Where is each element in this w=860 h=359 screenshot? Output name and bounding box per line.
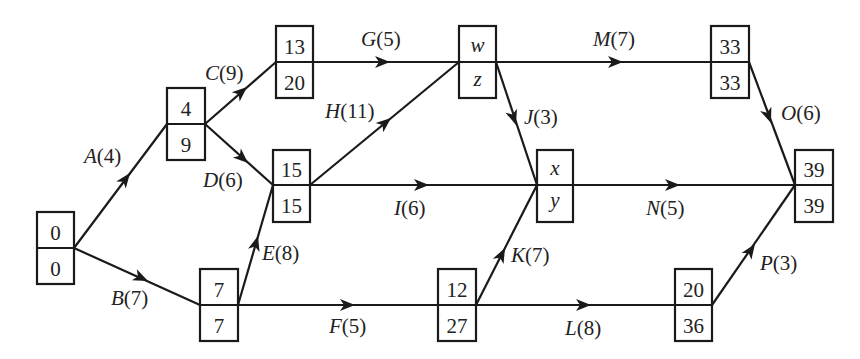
- label-o: O(6): [781, 101, 821, 125]
- node-10: 39 39: [795, 150, 833, 222]
- node-2-latest: 20: [284, 71, 305, 95]
- label-n: N(5): [645, 196, 685, 220]
- node-0: 0 0: [37, 212, 74, 284]
- label-k: K(7): [510, 243, 550, 267]
- node-10-earliest: 39: [804, 158, 825, 182]
- activity-network-diagram: A(4) B(7) C(9) D(6) E(8) F(5) G(5) H(11)…: [0, 0, 860, 359]
- label-b: B(7): [111, 286, 148, 310]
- edge-g: [313, 56, 459, 68]
- label-g: G(5): [361, 27, 401, 51]
- node-8-latest: 33: [720, 71, 741, 95]
- node-6-earliest: x: [549, 156, 560, 180]
- label-i: I(6): [393, 196, 426, 220]
- edge-i: [310, 179, 537, 191]
- label-a: A(4): [82, 144, 121, 168]
- node-9: 20 36: [675, 269, 712, 341]
- node-7-earliest: 12: [447, 278, 468, 302]
- label-c: C(9): [205, 61, 244, 85]
- label-f: F(5): [328, 314, 366, 338]
- node-4: 7 7: [200, 269, 238, 341]
- edge-a: [74, 124, 167, 248]
- node-1: 4 9: [167, 88, 205, 160]
- node-0-earliest: 0: [50, 221, 61, 245]
- node-2-earliest: 13: [284, 35, 305, 59]
- node-0-latest: 0: [50, 257, 61, 281]
- node-9-latest: 36: [683, 314, 704, 338]
- label-j: J(3): [524, 105, 558, 129]
- label-m: M(7): [592, 27, 635, 51]
- label-h: H(11): [324, 99, 374, 123]
- node-9-earliest: 20: [683, 278, 704, 302]
- node-6: x y: [537, 150, 573, 222]
- node-8: 33 33: [711, 26, 749, 98]
- node-10-latest: 39: [804, 194, 825, 218]
- node-3-earliest: 15: [281, 158, 302, 182]
- node-3: 15 15: [273, 150, 310, 222]
- node-5-latest: z: [472, 67, 481, 91]
- node-3-latest: 15: [281, 194, 302, 218]
- label-p: P(3): [759, 251, 797, 275]
- node-2: 13 20: [276, 26, 313, 98]
- node-1-latest: 9: [181, 133, 192, 157]
- label-e: E(8): [261, 241, 299, 265]
- edge-m: [496, 56, 711, 68]
- node-4-latest: 7: [214, 314, 225, 338]
- node-5: w z: [459, 26, 496, 98]
- label-l: L(8): [564, 316, 601, 340]
- node-7-latest: 27: [447, 314, 468, 338]
- edge-n: [573, 179, 795, 191]
- node-5-earliest: w: [470, 33, 484, 57]
- edge-l: [476, 299, 675, 311]
- label-d: D(6): [202, 168, 243, 192]
- node-1-earliest: 4: [181, 97, 192, 121]
- node-6-latest: y: [548, 188, 560, 212]
- node-8-earliest: 33: [720, 35, 741, 59]
- edge-h: [310, 62, 459, 185]
- node-7: 12 27: [438, 269, 476, 341]
- edge-p: [712, 185, 795, 305]
- node-4-earliest: 7: [214, 278, 225, 302]
- edge-f: [238, 299, 438, 311]
